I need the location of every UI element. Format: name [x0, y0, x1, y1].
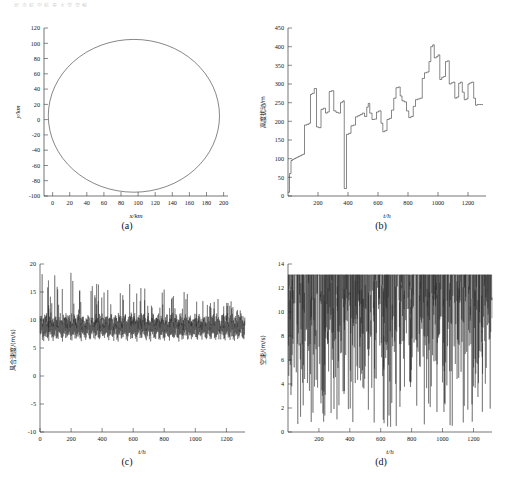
ytick-label: 400 — [275, 43, 284, 50]
xtick-label: 120 — [151, 199, 160, 206]
ytick-label: 50 — [278, 174, 284, 181]
subplot-b-xlabel: t/h — [383, 212, 391, 220]
ytick-label: 4 — [281, 380, 284, 387]
xtick-label: 600 — [129, 435, 138, 442]
ytick-label: 0 — [281, 192, 284, 199]
ytick-label: 10 — [278, 308, 284, 315]
ytick-label: 120 — [31, 24, 40, 31]
subplot-d-xticks: 200 400 600 800 1000 1200 — [314, 428, 479, 442]
ytick-label: 150 — [275, 136, 284, 143]
subplot-a: -100 -80 -60 -40 -20 0 20 40 60 80 100 1… — [0, 10, 254, 235]
ytick-label: 0 — [37, 116, 40, 123]
ytick-label: -60 — [32, 162, 40, 169]
ytick-label: -40 — [32, 146, 40, 153]
ytick-label: -10 — [28, 428, 36, 435]
xtick-label: 60 — [101, 199, 107, 206]
subplot-a-trajectory — [48, 39, 219, 192]
subplot-c-canvas: -10 -5 0 5 10 15 20 0 200 400 600 — [0, 250, 254, 480]
ytick-label: 40 — [34, 85, 40, 92]
xtick-label: 0 — [51, 199, 54, 206]
subplot-b-caption: (b) — [254, 220, 508, 231]
ytick-label: 80 — [34, 55, 40, 62]
xtick-label: 1000 — [189, 435, 201, 442]
subplot-d-canvas: 0 2 4 6 8 10 12 14 200 400 600 800 — [254, 250, 508, 480]
subplot-c-ylabel: 风合速度/(m/s) — [9, 329, 17, 371]
subplot-d-xlabel: t/h — [386, 448, 394, 456]
subplot-c-data — [40, 273, 245, 342]
ytick-label: -20 — [32, 131, 40, 138]
ytick-label: 2 — [281, 404, 284, 411]
subplot-b: 0 50 100 150 200 250 300 350 400 450 200 — [254, 10, 508, 235]
xtick-label: 800 — [160, 435, 169, 442]
subplot-d-data — [288, 275, 492, 427]
xtick-label: 1000 — [432, 199, 444, 206]
subplot-c-yticks: -10 -5 0 5 10 15 20 — [28, 260, 44, 435]
xtick-label: 200 — [219, 199, 228, 206]
subplot-b-data — [288, 45, 483, 192]
subplot-b-xticks: 200 400 600 800 1000 1200 — [313, 192, 474, 206]
subplot-c: -10 -5 0 5 10 15 20 0 200 400 600 — [0, 250, 254, 480]
xtick-label: 600 — [373, 199, 382, 206]
subplot-d-ylabel: 空速/(m/s) — [259, 335, 267, 365]
ytick-label: 20 — [30, 260, 36, 267]
subplot-a-canvas: -100 -80 -60 -40 -20 0 20 40 60 80 100 1… — [0, 10, 254, 235]
ytick-label: 20 — [34, 101, 40, 108]
xtick-label: 20 — [67, 199, 73, 206]
xtick-label: 40 — [84, 199, 90, 206]
subplot-b-yticks: 0 50 100 150 200 250 300 350 400 450 — [275, 24, 292, 199]
ytick-label: -100 — [29, 192, 40, 199]
ytick-label: -80 — [32, 177, 40, 184]
xtick-label: 0 — [38, 435, 41, 442]
xtick-label: 200 — [66, 435, 75, 442]
subplot-a-caption: (a) — [0, 220, 254, 231]
ytick-label: 8 — [281, 332, 284, 339]
figure-panel-grid: 北 京 航 空 航 天 大 学 学 报 — [0, 0, 508, 489]
subplot-c-xticks: 0 200 400 600 800 1000 1200 — [38, 428, 232, 442]
ytick-label: 200 — [275, 118, 284, 125]
ytick-label: 0 — [33, 372, 36, 379]
xtick-label: 1000 — [436, 435, 448, 442]
xtick-label: 140 — [168, 199, 177, 206]
ytick-label: 6 — [281, 356, 284, 363]
ytick-label: 300 — [275, 80, 284, 87]
subplot-d: 0 2 4 6 8 10 12 14 200 400 600 800 — [254, 250, 508, 480]
ytick-label: -5 — [31, 400, 36, 407]
ytick-label: 450 — [275, 24, 284, 31]
subplot-b-canvas: 0 50 100 150 200 250 300 350 400 450 200 — [254, 10, 508, 235]
ytick-label: 0 — [281, 428, 284, 435]
ytick-label: 100 — [31, 40, 40, 47]
xtick-label: 600 — [376, 435, 385, 442]
ytick-label: 100 — [275, 155, 284, 162]
xtick-label: 80 — [118, 199, 124, 206]
page-header-text: 北 京 航 空 航 天 大 学 学 报 — [14, 1, 122, 7]
xtick-label: 400 — [345, 435, 354, 442]
xtick-label: 200 — [313, 199, 322, 206]
xtick-label: 1200 — [462, 199, 474, 206]
ytick-label: 12 — [278, 284, 284, 291]
xtick-label: 1200 — [220, 435, 232, 442]
subplot-a-ylabel: y/km — [14, 105, 22, 119]
xtick-label: 800 — [407, 435, 416, 442]
xtick-label: 800 — [403, 199, 412, 206]
xtick-label: 1200 — [467, 435, 479, 442]
ytick-label: 5 — [33, 344, 36, 351]
subplot-a-yticks: -100 -80 -60 -40 -20 0 20 40 60 80 100 1… — [29, 24, 48, 199]
subplot-a-xlabel: x/km — [128, 212, 142, 220]
subplot-b-axes — [288, 28, 486, 196]
subplot-c-xlabel: t/h — [138, 448, 146, 456]
subplot-c-caption: (c) — [0, 456, 254, 467]
xtick-label: 180 — [202, 199, 211, 206]
xtick-label: 200 — [314, 435, 323, 442]
subplot-d-caption: (d) — [254, 456, 508, 467]
xtick-label: 100 — [133, 199, 142, 206]
subplot-a-xticks: 0 20 40 60 80 100 120 140 160 180 200 — [51, 192, 228, 206]
xtick-label: 400 — [97, 435, 106, 442]
xtick-label: 160 — [185, 199, 194, 206]
ytick-label: 15 — [30, 288, 36, 295]
ytick-label: 10 — [30, 316, 36, 323]
ytick-label: 60 — [34, 70, 40, 77]
subplot-a-axes — [44, 28, 228, 196]
ytick-label: 350 — [275, 62, 284, 69]
ytick-label: 14 — [278, 260, 284, 267]
subplot-b-ylabel: 高度扰动/m — [259, 96, 267, 128]
